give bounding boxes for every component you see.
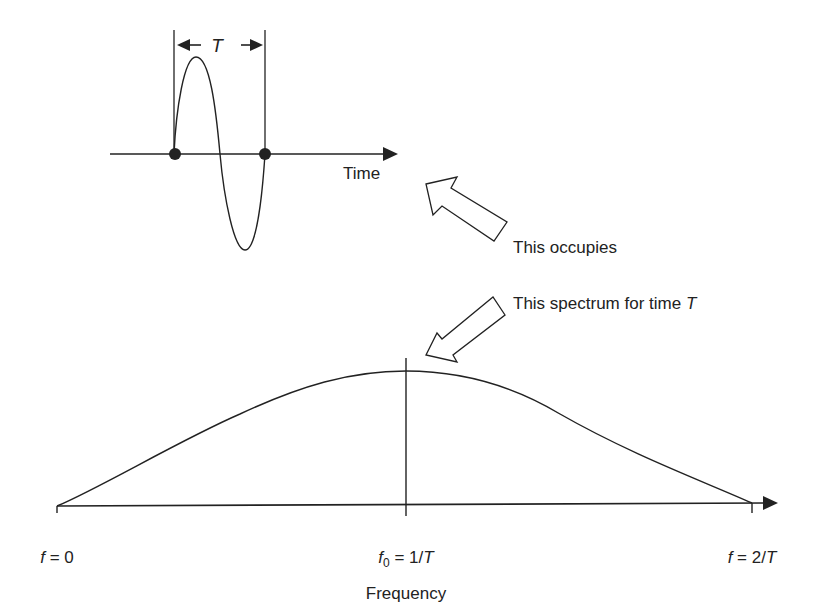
time-axis-arrowhead-icon <box>383 147 398 161</box>
period-dimension: T <box>177 35 263 56</box>
tick-label-zero: f = 0 <box>40 548 74 567</box>
tick-label-center: f0 = 1/T <box>378 548 435 570</box>
upper-hollow-arrow-icon <box>426 177 507 241</box>
upper-annotation-text: This occupies <box>513 238 617 257</box>
tick-label-right: f = 2/T <box>728 548 778 567</box>
annotations: This occupies This spectrum for time T <box>426 177 698 362</box>
frequency-axis-label: Frequency <box>366 584 447 603</box>
left-arrowhead-icon <box>177 39 190 51</box>
time-domain-panel: T Time <box>110 30 398 250</box>
frequency-axis-arrowhead-icon <box>763 496 778 510</box>
frequency-axis <box>57 503 765 506</box>
period-end-dot <box>259 148 271 160</box>
diagram-canvas: T Time This occupies This spectrum for t… <box>0 0 816 611</box>
lower-annotation-text: This spectrum for time T <box>513 294 698 313</box>
frequency-domain-panel: f = 0 f0 = 1/T f = 2/T Frequency <box>40 358 778 603</box>
period-label: T <box>211 35 224 56</box>
spectrum-curve <box>57 371 752 506</box>
lower-hollow-arrow-icon <box>426 297 505 362</box>
time-axis-label: Time <box>343 164 380 183</box>
right-arrowhead-icon <box>250 39 263 51</box>
period-start-dot <box>169 148 181 160</box>
